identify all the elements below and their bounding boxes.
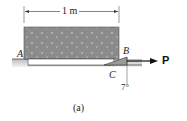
- diagram-canvas: [0, 0, 187, 121]
- angle-label: 7°: [121, 83, 129, 92]
- block-gap: [28, 59, 114, 65]
- force-label-p: P: [162, 55, 169, 66]
- figure-caption: (a): [73, 103, 84, 113]
- point-label-a: A: [17, 49, 23, 59]
- point-label-c: C: [109, 70, 116, 80]
- concrete-block: [24, 27, 119, 59]
- dimension-label: 1 m: [60, 6, 79, 16]
- point-label-b: B: [123, 46, 129, 56]
